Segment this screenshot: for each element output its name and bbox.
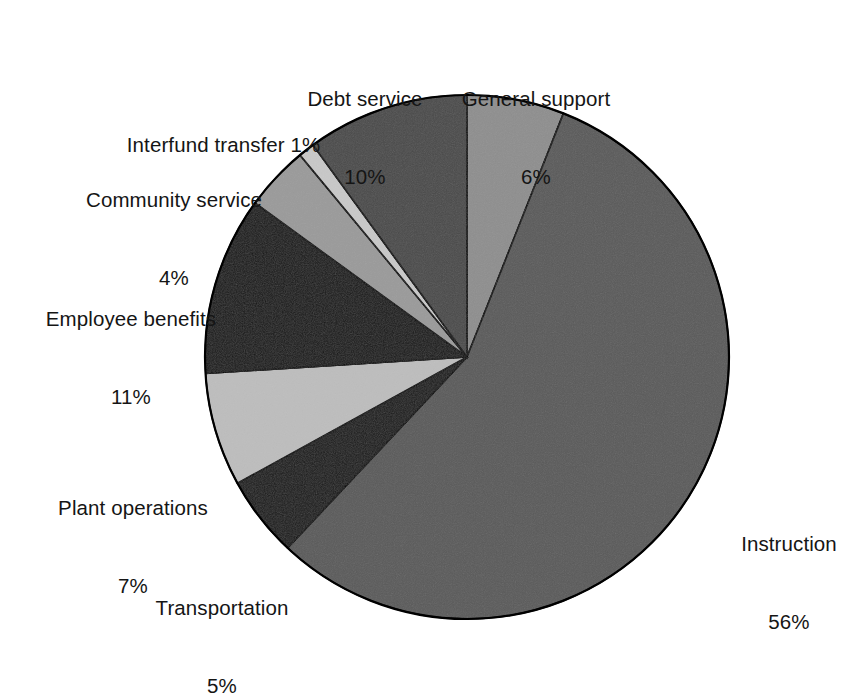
slice-label-name: Community service bbox=[56, 187, 292, 213]
slice-label-general-support: General support 6% bbox=[443, 34, 629, 242]
slice-label-name: Employee benefits bbox=[22, 306, 240, 332]
slice-label-name: Transportation bbox=[126, 595, 318, 621]
slice-label-percent: 1% bbox=[291, 133, 321, 156]
slice-label-instruction: Instruction 56% bbox=[731, 479, 847, 687]
slice-label-name: Instruction bbox=[731, 531, 847, 557]
slice-label-percent: 5% bbox=[126, 673, 318, 697]
slice-label-name: Plant operations bbox=[28, 495, 238, 521]
slice-label-percent: 11% bbox=[22, 384, 240, 410]
slice-label-name: General support bbox=[443, 86, 629, 112]
slice-label-transportation: Transportation 5% bbox=[126, 543, 318, 697]
slice-label-percent: 56% bbox=[731, 609, 847, 635]
slice-label-percent: 6% bbox=[443, 164, 629, 190]
slice-label-employee-benefits: Employee benefits 11% bbox=[22, 254, 240, 462]
